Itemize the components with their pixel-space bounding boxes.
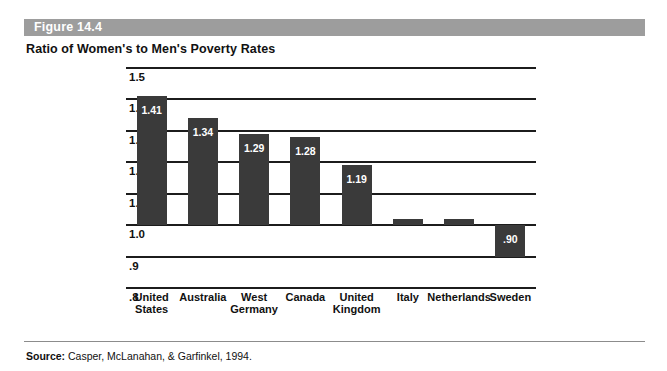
bar-value-label: 1.41	[134, 105, 170, 116]
bar-value-label: 1.34	[185, 127, 221, 138]
plot-area: 1.411.341.291.281.191.021.02.90	[126, 68, 536, 288]
bar	[444, 219, 474, 225]
source-label: Source:	[26, 350, 65, 362]
bar-value-label: 1.28	[287, 146, 323, 157]
gridline	[126, 98, 536, 100]
bar-chart: 1.51.41.31.21.11.0.9.8 1.411.341.291.281…	[0, 0, 667, 330]
bar-value-label: 1.02	[390, 228, 426, 239]
source-divider	[24, 341, 645, 342]
bar-value-label: 1.29	[236, 143, 272, 154]
gridline	[126, 67, 536, 69]
source-note: Source: Casper, McLanahan, & Garfinkel, …	[26, 350, 252, 362]
gridline	[126, 287, 536, 289]
bar-value-label: 1.02	[441, 228, 477, 239]
bar-value-label: 1.19	[339, 174, 375, 185]
source-text: Casper, McLanahan, & Garfinkel, 1994.	[65, 350, 252, 362]
bar-value-label: .90	[492, 234, 528, 245]
gridline	[126, 256, 536, 258]
x-axis-category-label: Sweden	[470, 292, 550, 304]
bar	[393, 219, 423, 225]
